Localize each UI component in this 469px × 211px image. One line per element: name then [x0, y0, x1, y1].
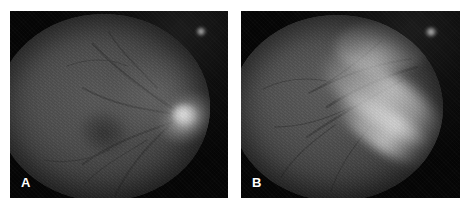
fundus-image-b	[241, 15, 443, 198]
panel-label-b: B	[252, 176, 262, 189]
rim-notch-a	[196, 27, 206, 36]
panel-a: A	[10, 11, 228, 198]
panel-label-a: A	[21, 176, 31, 189]
panel-b: B	[241, 11, 460, 198]
bright-lesion-core-a	[172, 104, 196, 124]
fundus-image-a	[10, 14, 210, 198]
rim-notch-b	[425, 27, 437, 37]
figure-root: A	[0, 0, 469, 211]
